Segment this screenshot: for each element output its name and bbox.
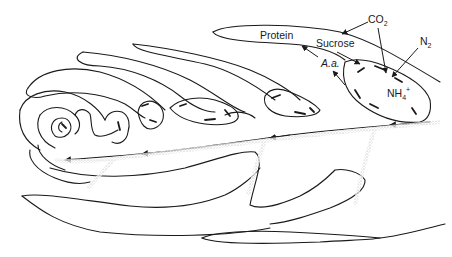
lower-leaf-3 [202, 224, 445, 238]
leaf-3 [83, 52, 245, 112]
leaf-2 [133, 44, 300, 100]
arrow-n2-down [392, 48, 418, 77]
label-nh4: NH4+ [387, 86, 410, 101]
label-sucrose: Sucrose [316, 38, 355, 49]
apex-spiral [51, 118, 70, 137]
leaf-5 [20, 91, 105, 120]
label-protein: Protein [260, 30, 293, 41]
lobe-1 [75, 110, 118, 137]
lobe-5 [264, 89, 320, 116]
label-co2: CO2 [368, 14, 388, 27]
arrow-sucrose-to-nodule [337, 52, 360, 64]
lower-leaf-2 [22, 196, 270, 235]
leaf-4 [28, 69, 165, 110]
arrow-co2-to-sucrose [342, 22, 368, 34]
shoot-diagram [0, 0, 452, 257]
label-amino-acids: A.a. [321, 58, 340, 69]
outer-leaf-top [213, 25, 440, 82]
lower-leaf-1 [50, 152, 365, 224]
vascular-tissue [55, 122, 440, 205]
lobe-3 [170, 98, 238, 125]
label-n2: N2 [420, 36, 432, 49]
